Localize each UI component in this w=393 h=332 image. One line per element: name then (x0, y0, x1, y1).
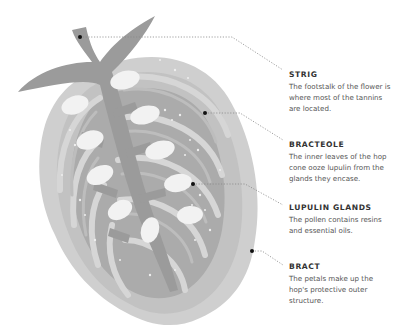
marker-dot-strig (78, 35, 82, 39)
label-title: BRACT (289, 262, 393, 272)
label-lupulin-glands: LUPULIN GLANDS The pollen contains resin… (289, 203, 393, 236)
label-title: LUPULIN GLANDS (289, 203, 393, 213)
marker-dot-bract (250, 249, 254, 253)
label-strig: STRIG The footstalk of the flower is whe… (289, 70, 393, 115)
leader-line-bract (252, 251, 283, 265)
label-bracteole: BRACTEOLE The inner leaves of the hop co… (289, 140, 393, 185)
label-description: The footstalk of the flower is where mos… (289, 81, 393, 115)
label-description: The pollen contains resins and essential… (289, 214, 393, 236)
label-title: BRACTEOLE (289, 140, 393, 150)
marker-dot-lupulin (191, 182, 195, 186)
label-bract: BRACT The petals make up the hop's prote… (289, 262, 393, 307)
label-title: STRIG (289, 70, 393, 80)
marker-dot-bracteole (203, 111, 207, 115)
label-description: The petals make up the hop's protective … (289, 273, 393, 307)
label-description: The inner leaves of the hop cone ooze lu… (289, 151, 393, 185)
